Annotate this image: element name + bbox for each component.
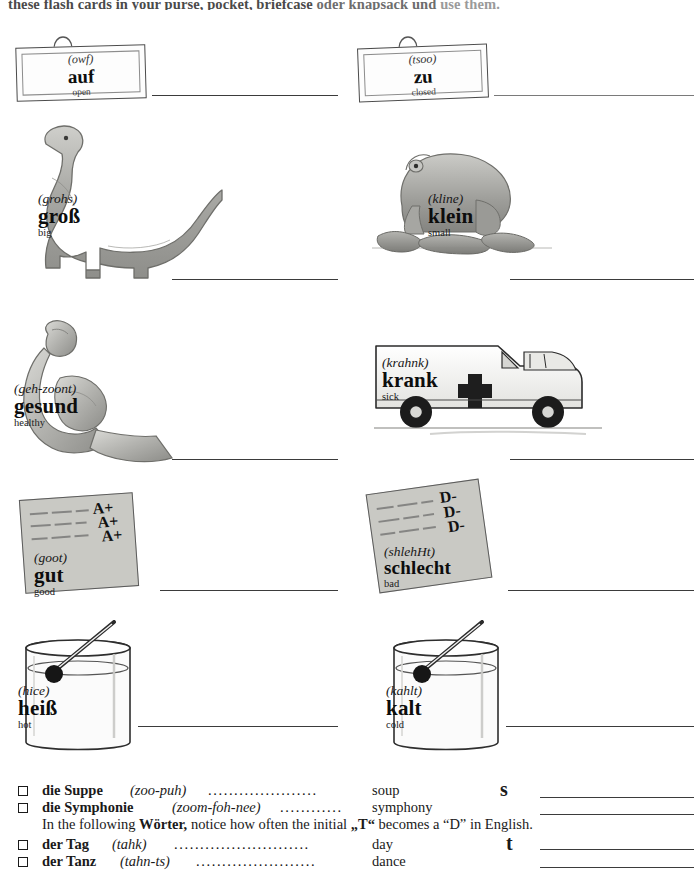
english-auf: open bbox=[17, 85, 145, 99]
english-suppe: soup bbox=[372, 782, 399, 799]
caption-klein: (kline) klein small bbox=[428, 192, 473, 238]
german-symphonie: die Symphonie bbox=[42, 799, 133, 816]
vocabulary-checklist: die Suppe (zoo-puh) ....................… bbox=[0, 782, 699, 870]
word-klein: klein bbox=[428, 205, 473, 227]
instruction-part3: use them. bbox=[436, 0, 499, 10]
dots-symphonie: ............ bbox=[280, 799, 343, 816]
word-kalt: kalt bbox=[386, 697, 422, 719]
english-tanz: dance bbox=[372, 853, 406, 870]
english-tag: day bbox=[372, 836, 393, 853]
word-heiss: heiß bbox=[18, 697, 57, 719]
english-krank: sick bbox=[382, 391, 438, 402]
hint-letter-t: t bbox=[506, 832, 513, 855]
grade-gut-3: A+ bbox=[101, 526, 123, 545]
english-klein: small bbox=[428, 227, 473, 238]
art-frog bbox=[372, 140, 582, 260]
german-suppe: die Suppe bbox=[42, 782, 103, 799]
english-symphonie: symphony bbox=[372, 799, 432, 816]
english-heiss: hot bbox=[18, 719, 57, 730]
caption-gut: (goot) gut good bbox=[34, 551, 67, 597]
pron-symphonie: (zoom-foh-nee) bbox=[172, 799, 261, 816]
checkbox-tanz[interactable] bbox=[18, 857, 28, 867]
pron-tanz: (tahn-ts) bbox=[120, 853, 170, 870]
checkbox-suppe[interactable] bbox=[18, 786, 28, 796]
note-before: In the following bbox=[42, 816, 139, 832]
write-line-gesund[interactable] bbox=[172, 459, 338, 460]
caption-krank: (krahnk) krank sick bbox=[382, 356, 438, 402]
textbook-page: these flash cards in your purse, pocket,… bbox=[0, 0, 699, 880]
german-tag: der Tag bbox=[42, 836, 89, 853]
caption-heiss: (hice) heiß hot bbox=[18, 684, 57, 730]
write-line-gut[interactable] bbox=[160, 590, 338, 591]
note-bold-woerter: Wörter, bbox=[139, 816, 187, 832]
instruction-line: these flash cards in your purse, pocket,… bbox=[8, 0, 698, 10]
dots-tanz: ....................... bbox=[196, 853, 316, 870]
pron-tag: (tahk) bbox=[112, 836, 147, 853]
write-line-kalt[interactable] bbox=[506, 726, 694, 727]
word-gross: groß bbox=[38, 205, 80, 227]
instruction-part1: these flash cards in your purse, pocket,… bbox=[8, 0, 317, 10]
sign-card-auf: (owf) auf open bbox=[15, 44, 146, 102]
write-line-krank[interactable] bbox=[510, 459, 694, 460]
note-middle: notice how often the initial bbox=[187, 816, 351, 832]
write-line-klein[interactable] bbox=[510, 279, 694, 280]
write-line-heiss[interactable] bbox=[138, 726, 338, 727]
english-gut: good bbox=[34, 586, 67, 597]
note-after: becomes a “D” in English. bbox=[375, 816, 533, 832]
caption-gesund: (geh-zoont) gesund healthy bbox=[14, 382, 78, 428]
caption-gross: (grohs) groß big bbox=[38, 192, 80, 238]
vocab-row-tag[interactable]: der Tag (tahk) .........................… bbox=[0, 836, 699, 853]
english-gross: big bbox=[38, 227, 80, 238]
pron-suppe: (zoo-puh) bbox=[130, 782, 186, 799]
hint-letter-s: s bbox=[500, 778, 508, 801]
sign-text-auf: (owf) auf open bbox=[16, 50, 145, 98]
write-line-suppe[interactable] bbox=[540, 797, 694, 798]
instruction-part2: knapsack bbox=[345, 0, 412, 10]
vocab-note: In the following Wörter, notice how ofte… bbox=[42, 816, 533, 833]
sign-card-zu: (tsoo) zu closed bbox=[357, 44, 489, 103]
dots-suppe: ..................... bbox=[208, 782, 318, 799]
write-line-tag[interactable] bbox=[540, 849, 694, 850]
english-kalt: cold bbox=[386, 719, 422, 730]
caption-kalt: (kahlt) kalt cold bbox=[386, 684, 422, 730]
write-line-schlecht[interactable] bbox=[508, 590, 694, 591]
write-line-symphonie[interactable] bbox=[540, 814, 694, 815]
instruction-und: und bbox=[412, 0, 437, 10]
word-gesund: gesund bbox=[14, 395, 78, 417]
write-line-tanz[interactable] bbox=[540, 867, 694, 868]
checkbox-tag[interactable] bbox=[18, 840, 28, 850]
instruction-oder: oder bbox=[317, 0, 345, 10]
caption-schlecht: (shlehHt) schlecht bad bbox=[384, 545, 451, 589]
write-line-zu[interactable] bbox=[494, 95, 694, 96]
dots-tag: .......................... bbox=[174, 836, 310, 853]
word-krank: krank bbox=[382, 369, 438, 391]
write-line-gross[interactable] bbox=[172, 279, 338, 280]
write-line-auf[interactable] bbox=[152, 95, 338, 96]
note-quoted-t: „T“ bbox=[351, 816, 375, 832]
word-gut: gut bbox=[34, 564, 67, 586]
checkbox-symphonie[interactable] bbox=[18, 803, 28, 813]
grade-schlecht-3: D- bbox=[447, 516, 466, 536]
word-schlecht: schlecht bbox=[384, 558, 451, 578]
english-schlecht: bad bbox=[384, 578, 451, 589]
sign-text-zu: (tsoo) zu closed bbox=[358, 50, 488, 100]
english-gesund: healthy bbox=[14, 417, 78, 428]
vocab-note-row: In the following Wörter, notice how ofte… bbox=[0, 816, 699, 836]
german-tanz: der Tanz bbox=[42, 853, 96, 870]
